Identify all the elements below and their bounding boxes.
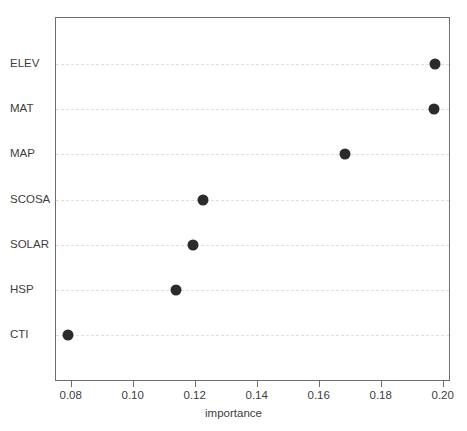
x-axis-tick-label-012: 0.12 — [183, 389, 205, 401]
gridline-mat — [56, 109, 449, 110]
x-axis-tick-label-014: 0.14 — [245, 389, 267, 401]
x-axis-tick-mark-008 — [71, 381, 72, 387]
x-axis-tick-label-018: 0.18 — [369, 389, 391, 401]
x-axis-tick-label-008: 0.08 — [59, 389, 81, 401]
y-axis-tick-label-cti: CTI — [10, 328, 29, 340]
x-axis-tick-mark-016 — [319, 381, 320, 387]
data-point-elev[interactable] — [430, 59, 441, 70]
gridline-elev — [56, 64, 449, 65]
plot-area — [55, 17, 450, 381]
y-axis-tick-label-map: MAP — [10, 147, 35, 159]
y-axis-tick-label-scosa: SCOSA — [10, 193, 50, 205]
y-axis-tick-label-hsp: HSP — [10, 283, 34, 295]
data-point-solar[interactable] — [188, 240, 199, 251]
gridline-map — [56, 154, 449, 155]
data-point-map[interactable] — [340, 149, 351, 160]
x-axis-tick-mark-010 — [133, 381, 134, 387]
x-axis-tick-label-020: 0.20 — [431, 389, 453, 401]
x-axis-tick-mark-014 — [257, 381, 258, 387]
y-axis-tick-label-solar: SOLAR — [10, 238, 49, 250]
gridline-cti — [56, 335, 449, 336]
x-axis-tick-mark-012 — [195, 381, 196, 387]
data-point-hsp[interactable] — [171, 285, 182, 296]
gridline-hsp — [56, 290, 449, 291]
dot-plot-figure: ELEV MAT MAP SCOSA SOLAR HSP CTI 0.08 0.… — [0, 0, 467, 431]
data-point-scosa[interactable] — [197, 195, 208, 206]
y-axis-tick-label-mat: MAT — [10, 102, 33, 114]
data-point-cti[interactable] — [62, 330, 73, 341]
gridline-scosa — [56, 200, 449, 201]
x-axis-tick-mark-020 — [443, 381, 444, 387]
y-axis-tick-label-elev: ELEV — [10, 57, 39, 69]
x-axis-tick-label-010: 0.10 — [121, 389, 143, 401]
y-axis-labels: ELEV MAT MAP SCOSA SOLAR HSP CTI — [0, 0, 47, 431]
data-point-mat[interactable] — [428, 104, 439, 115]
x-axis-tick-label-016: 0.16 — [307, 389, 329, 401]
x-axis-tick-mark-018 — [381, 381, 382, 387]
x-axis-title: importance — [0, 407, 467, 419]
gridline-solar — [56, 245, 449, 246]
